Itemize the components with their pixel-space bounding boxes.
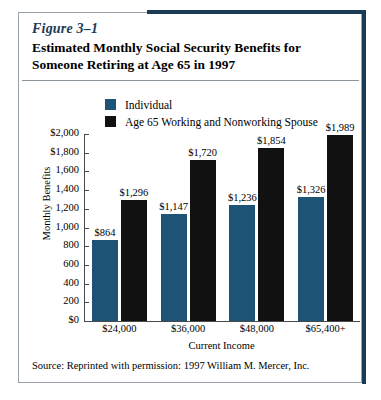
y-axis-tick-label: $1,800 xyxy=(50,146,79,157)
y-axis-tick-mark xyxy=(85,190,89,191)
bar-value-label: $1,989 xyxy=(326,122,355,133)
bar-value-label: $1,326 xyxy=(297,184,326,195)
y-axis-title: Monthly Benefits xyxy=(41,149,52,259)
bar-value-label: $1,296 xyxy=(119,187,148,198)
y-axis-tick-mark xyxy=(85,153,89,154)
bar-value-label: $1,236 xyxy=(228,192,257,203)
y-axis-tick-label: 1,400 xyxy=(55,183,79,194)
bar-group: $1,326$1,989 xyxy=(298,134,353,321)
y-axis-tick-label: 1,000 xyxy=(55,221,79,232)
plot-area: $864$1,296$24,000$1,147$1,720$36,000$1,2… xyxy=(84,134,360,322)
source-note: Source: Reprinted with permission: 1997 … xyxy=(32,360,309,371)
chart-plot: Monthly Benefits $864$1,296$24,000$1,147… xyxy=(19,13,363,384)
y-axis-tick-mark xyxy=(85,302,89,303)
bar-individual: $1,147 xyxy=(161,214,187,321)
y-axis-tick-label: 200 xyxy=(63,295,79,306)
y-axis-tick-label: $2,000 xyxy=(50,127,79,138)
y-axis-tick-mark xyxy=(85,134,89,135)
figure-card: Figure 3–1 Estimated Monthly Social Secu… xyxy=(18,12,362,383)
bar-group: $864$1,296 xyxy=(92,134,147,321)
bar-individual: $864 xyxy=(92,240,118,321)
y-axis-tick-label: 800 xyxy=(63,239,79,250)
bars-container: $864$1,296$24,000$1,147$1,720$36,000$1,2… xyxy=(85,134,360,321)
bar-group: $1,147$1,720 xyxy=(161,134,216,321)
bar-individual: $1,236 xyxy=(229,205,255,321)
bar-spouse: $1,720 xyxy=(190,160,216,321)
y-axis-tick-label: $0 xyxy=(69,314,80,325)
y-axis-tick-mark xyxy=(85,284,89,285)
y-axis-tick-mark xyxy=(85,171,89,172)
y-axis-tick-label: 1,600 xyxy=(55,164,79,175)
y-axis-tick-label: 1,200 xyxy=(55,202,79,213)
bar-value-label: $1,720 xyxy=(188,147,217,158)
y-axis-tick-label: 400 xyxy=(63,277,79,288)
y-axis-tick-mark xyxy=(85,246,89,247)
y-axis-tick-mark xyxy=(85,265,89,266)
bar-individual: $1,326 xyxy=(298,197,324,321)
bar-spouse: $1,989 xyxy=(327,135,353,321)
x-axis-title: Current Income xyxy=(84,340,359,351)
x-axis-tick-label: $48,000 xyxy=(223,323,292,334)
bar-value-label: $1,147 xyxy=(159,201,188,212)
y-axis-tick-label: 600 xyxy=(63,258,79,269)
x-axis-tick-label: $24,000 xyxy=(85,323,154,334)
bar-spouse: $1,854 xyxy=(258,148,284,321)
x-axis-tick-label: $36,000 xyxy=(154,323,223,334)
bar-value-label: $864 xyxy=(94,227,115,238)
bar-value-label: $1,854 xyxy=(257,135,286,146)
bar-group: $1,236$1,854 xyxy=(229,134,284,321)
y-axis-tick-mark xyxy=(85,209,89,210)
bar-spouse: $1,296 xyxy=(121,200,147,321)
y-axis-tick-mark xyxy=(85,228,89,229)
y-axis-tick-mark xyxy=(85,321,89,322)
x-axis-tick-label: $65,400+ xyxy=(291,323,360,334)
